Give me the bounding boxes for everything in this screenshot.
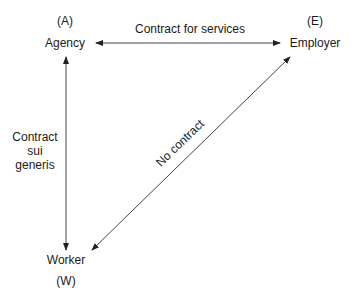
edge-label-generis: generis [10, 158, 60, 172]
employer-label: Employer [285, 36, 345, 50]
worker-label: Worker [36, 253, 96, 267]
edge-label-contract-for-services: Contract for services [120, 22, 260, 36]
agency-code: (A) [45, 14, 85, 28]
edge-label-sui: sui [10, 144, 60, 158]
worker-code: (W) [46, 274, 86, 288]
arrow-employer-worker [92, 57, 290, 250]
agency-label: Agency [35, 36, 95, 50]
edge-label-contract: Contract [10, 130, 60, 144]
employer-code: (E) [295, 14, 335, 28]
